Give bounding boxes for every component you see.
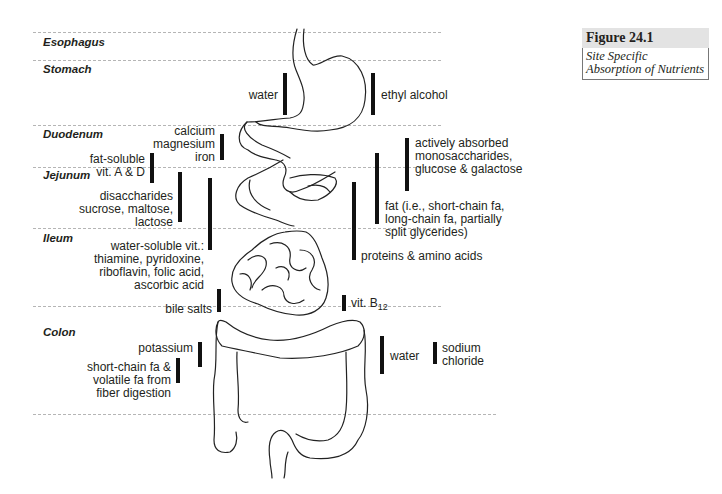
ileum-coil	[270, 243, 306, 271]
label-proteins: proteins & amino acids	[361, 250, 482, 263]
jejunum-outline	[290, 175, 336, 201]
label-sodium-chloride: sodium chloride	[442, 342, 484, 368]
figure-caption-box: Figure 24.1 Site Specific Absorption of …	[582, 28, 709, 80]
label-calcium-magnesium-iron: calcium magnesium iron	[145, 125, 215, 164]
absorption-bar-water-soluble	[208, 178, 212, 250]
absorption-bar-vit-b12	[342, 295, 346, 311]
figure-caption: Site Specific Absorption of Nutrients	[582, 48, 709, 80]
absorption-bar-bile-salts	[217, 289, 221, 312]
jejunum-outline	[236, 160, 294, 226]
ileum-coil	[276, 267, 289, 280]
rectum-outline	[284, 452, 288, 478]
label-water-soluble-vitamins: water-soluble vit.: thiamine, pyridoxine…	[70, 240, 204, 292]
colon-outline	[213, 322, 236, 453]
absorption-bar-ethyl-alcohol	[371, 73, 375, 115]
colon-outline	[269, 330, 367, 478]
label-colon-water: water	[390, 350, 419, 363]
jejunum-outline	[308, 185, 330, 192]
absorption-bar-short-chain-fa	[176, 358, 180, 383]
label-short-chain-fa: short-chain fa & volatile fa from fiber …	[70, 361, 171, 400]
jejunum-outline	[249, 180, 270, 210]
label-monosaccharides: actively absorbed monosaccharides, gluco…	[415, 137, 522, 176]
ileum-coil	[240, 274, 251, 290]
colon-outline	[237, 352, 248, 422]
absorption-bar-disaccharides	[178, 172, 182, 222]
label-vit-b12: vit. B12	[351, 297, 388, 314]
absorption-bar-colon-water	[380, 336, 384, 374]
label-bile-salts: bile salts	[150, 303, 212, 316]
absorption-bar-calcium	[220, 134, 224, 160]
label-stomach-water: water	[240, 89, 278, 102]
label-potassium: potassium	[120, 342, 193, 355]
label-disaccharides: disaccharides sucrose, maltose, lactose	[70, 190, 173, 229]
absorption-bar-fat	[375, 153, 379, 224]
esophagus-outline	[239, 29, 335, 192]
esophagus-outline	[256, 29, 366, 131]
colon-outline	[296, 352, 347, 441]
ileum-coil	[262, 286, 304, 304]
absorption-bar-proteins	[352, 182, 356, 260]
absorption-bar-monosaccharides	[405, 138, 409, 191]
label-fat-soluble-vitamins: fat-soluble vit. A & D	[75, 153, 145, 179]
absorption-bar-potassium	[198, 342, 202, 367]
absorption-bar-sodium-chloride	[433, 342, 437, 364]
label-fat: fat (i.e., short-chain fa, long-chain fa…	[385, 200, 504, 239]
absorption-bar-stomach-water	[283, 73, 287, 115]
label-vit-b12-subscript: 12	[378, 302, 388, 312]
figure-number: Figure 24.1	[582, 28, 709, 48]
colon-outline	[216, 320, 364, 358]
label-ethyl-alcohol: ethyl alcohol	[381, 89, 448, 102]
label-vit-b12-text: vit. B	[351, 296, 378, 310]
